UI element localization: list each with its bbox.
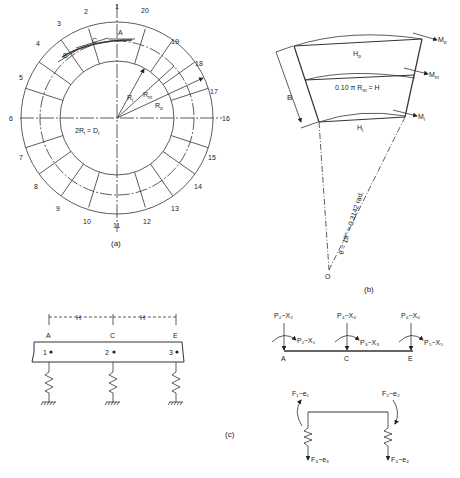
- mid-equation: 0.10 π Rm = H: [335, 84, 380, 93]
- svg-text:8: 8: [34, 183, 38, 190]
- force-a-top: P₂−X₂: [274, 312, 293, 319]
- force-e-top: P₆−X₆: [401, 312, 420, 319]
- svg-text:Rm: Rm: [143, 91, 152, 100]
- spring-c: [109, 362, 117, 402]
- force-e-side: P₅−X₅: [424, 339, 443, 346]
- support-a-label: A: [46, 332, 51, 339]
- node-3-label: 3: [169, 349, 173, 356]
- node-1-label: 1: [43, 349, 47, 356]
- tangent-e: [58, 48, 80, 62]
- moment-arc-f1: [297, 400, 302, 426]
- b-label: B: [287, 93, 292, 102]
- node-1-dot: [49, 350, 52, 353]
- mo-label: Mo: [438, 36, 447, 45]
- mm-label: Mm: [429, 71, 439, 80]
- hi-label: Hi: [357, 124, 363, 133]
- angle-label: θ = 18° = 0.3142 rad.: [337, 190, 364, 255]
- sector-figure: [276, 33, 437, 270]
- svg-text:1: 1: [115, 3, 119, 10]
- svg-text:13: 13: [171, 205, 179, 212]
- svg-text:2: 2: [84, 8, 88, 15]
- spacing-h-2: H: [140, 314, 145, 321]
- spring-frame: [297, 400, 397, 460]
- inner-chord: [319, 117, 405, 122]
- svg-text:4: 4: [36, 40, 40, 47]
- b-dimension-line: [276, 52, 301, 122]
- svg-text:10: 10: [83, 218, 91, 225]
- svg-text:12: 12: [143, 218, 151, 225]
- b-ext-bottom: [301, 122, 318, 128]
- point-a-label: A: [118, 29, 123, 36]
- beam-figure: [32, 314, 184, 405]
- svg-text:15: 15: [208, 154, 216, 161]
- spring-f3-label: F₃−e₃: [311, 456, 329, 463]
- b-ext-top: [276, 46, 293, 52]
- free-body-beam: [272, 323, 423, 351]
- node-2-dot: [112, 350, 115, 353]
- node-3-dot: [175, 350, 178, 353]
- svg-text:9: 9: [56, 205, 60, 212]
- diagram-canvas: 1 2 3 4 5 6 7 8 9 10 11 12 13 14 15 16 1…: [0, 0, 460, 478]
- svg-text:19: 19: [171, 38, 179, 45]
- caption-a: (a): [111, 239, 121, 248]
- spring-f1-label: F₁−e₁: [292, 390, 310, 397]
- spring-e: [172, 362, 180, 402]
- radius-labels: Ri Rm Ro: [127, 91, 163, 111]
- left-edge: [294, 46, 319, 122]
- spacing-h-1: H: [76, 314, 81, 321]
- point-c-label: C: [92, 37, 97, 44]
- mid-chord: [305, 75, 415, 80]
- fb-c-label: C: [344, 355, 349, 362]
- svg-text:5: 5: [19, 74, 23, 81]
- svg-text:11: 11: [113, 222, 120, 229]
- svg-text:16: 16: [222, 115, 230, 122]
- support-e-label: E: [173, 332, 178, 339]
- spring-f4-label: F₄−e₄: [391, 456, 409, 463]
- spring-a: [45, 362, 53, 402]
- caption-c: (c): [225, 430, 235, 439]
- origin-label: O: [325, 273, 331, 280]
- point-e-label: E: [63, 52, 68, 59]
- left-dash-radius: [319, 122, 329, 270]
- fb-a-label: A: [281, 355, 286, 362]
- svg-text:Ri: Ri: [127, 94, 133, 103]
- mi-label: Mi: [418, 113, 425, 122]
- ho-label: Ho: [353, 50, 361, 59]
- fb-e-label: E: [408, 355, 413, 362]
- svg-text:20: 20: [141, 7, 149, 14]
- svg-text:18: 18: [195, 60, 203, 67]
- support-c-label: C: [110, 332, 115, 339]
- caption-b: (b): [364, 285, 374, 294]
- svg-text:14: 14: [194, 183, 202, 190]
- moment-arc-f2: [393, 400, 398, 424]
- svg-text:6: 6: [9, 115, 13, 122]
- diameter-equation: 2Ri = Di: [75, 127, 99, 136]
- force-a-side: P₁−X₁: [297, 337, 316, 344]
- node-2-label: 2: [105, 349, 109, 356]
- ring-figure: [20, 4, 222, 232]
- svg-text:7: 7: [19, 154, 23, 161]
- spring-f2-label: F₂−e₂: [382, 390, 400, 397]
- right-edge: [405, 39, 422, 117]
- svg-text:Ro: Ro: [155, 102, 163, 111]
- force-c-top: P₄−X₄: [337, 312, 356, 319]
- outer-chord: [294, 39, 422, 46]
- force-c-side: P₃−X₃: [360, 339, 379, 346]
- svg-text:3: 3: [57, 20, 61, 27]
- svg-text:17: 17: [210, 88, 218, 95]
